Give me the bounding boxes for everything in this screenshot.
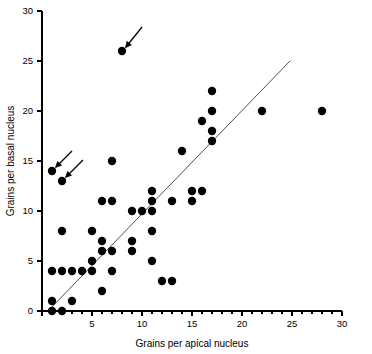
- data-point: [188, 197, 196, 205]
- data-point: [118, 47, 126, 55]
- annotation-arrows-group: [56, 27, 142, 177]
- axes-group: [42, 11, 342, 311]
- data-point: [198, 117, 206, 125]
- data-point: [148, 207, 156, 215]
- data-point: [98, 197, 106, 205]
- y-tick-label: 10: [22, 205, 33, 216]
- data-point: [48, 307, 56, 315]
- x-tick-label: 10: [137, 318, 148, 329]
- data-point: [48, 297, 56, 305]
- data-point: [108, 267, 116, 275]
- y-tick-label: 25: [22, 55, 33, 66]
- data-point: [58, 227, 66, 235]
- y-axis-title: Grains per basal nucleus: [5, 106, 16, 217]
- data-point: [318, 107, 326, 115]
- y-tick-label: 15: [22, 155, 33, 166]
- arrow-outlier-left-upper: [56, 151, 72, 167]
- data-points-group: [48, 47, 326, 315]
- y-tick-label: 0: [28, 305, 33, 316]
- data-point: [178, 147, 186, 155]
- data-point: [128, 247, 136, 255]
- data-point: [208, 87, 216, 95]
- data-point: [188, 187, 196, 195]
- data-point: [98, 247, 106, 255]
- data-point: [68, 297, 76, 305]
- data-point: [138, 207, 146, 215]
- x-axis-title: Grains per apical nucleus: [136, 338, 249, 349]
- y-tick-label: 20: [22, 105, 33, 116]
- data-point: [98, 237, 106, 245]
- data-point: [158, 277, 166, 285]
- data-point: [128, 237, 136, 245]
- data-point: [198, 187, 206, 195]
- data-point: [148, 227, 156, 235]
- data-point: [168, 277, 176, 285]
- data-point: [58, 267, 66, 275]
- y-tick-label: 30: [22, 5, 33, 16]
- x-tick-label: 30: [337, 318, 348, 329]
- data-point: [48, 267, 56, 275]
- y-axis-ticks: 051015202530: [22, 5, 42, 316]
- x-tick-label: 25: [287, 318, 298, 329]
- x-tick-label: 20: [237, 318, 248, 329]
- data-point: [88, 227, 96, 235]
- data-point: [108, 197, 116, 205]
- arrow-outlier-high: [126, 27, 142, 47]
- data-point: [258, 107, 266, 115]
- data-point: [88, 267, 96, 275]
- data-point: [148, 187, 156, 195]
- data-point: [88, 257, 96, 265]
- data-point: [128, 207, 136, 215]
- data-point: [48, 167, 56, 175]
- data-point: [208, 107, 216, 115]
- data-point: [148, 257, 156, 265]
- data-point: [98, 287, 106, 295]
- arrow-outlier-left-lower: [66, 160, 83, 177]
- plot-canvas: 051015202530 51015202530 Grains per apic…: [0, 0, 372, 354]
- data-point: [108, 247, 116, 255]
- data-point: [168, 197, 176, 205]
- data-point: [68, 267, 76, 275]
- x-axis-ticks: 51015202530: [42, 311, 347, 329]
- scatter-plot-figure: 051015202530 51015202530 Grains per apic…: [0, 0, 372, 354]
- data-point: [78, 267, 86, 275]
- data-point: [148, 197, 156, 205]
- x-tick-label: 5: [89, 318, 94, 329]
- data-point: [208, 137, 216, 145]
- data-point: [108, 157, 116, 165]
- data-point: [208, 127, 216, 135]
- y-tick-label: 5: [28, 255, 33, 266]
- x-tick-label: 15: [187, 318, 198, 329]
- data-point: [58, 307, 66, 315]
- data-point: [58, 177, 66, 185]
